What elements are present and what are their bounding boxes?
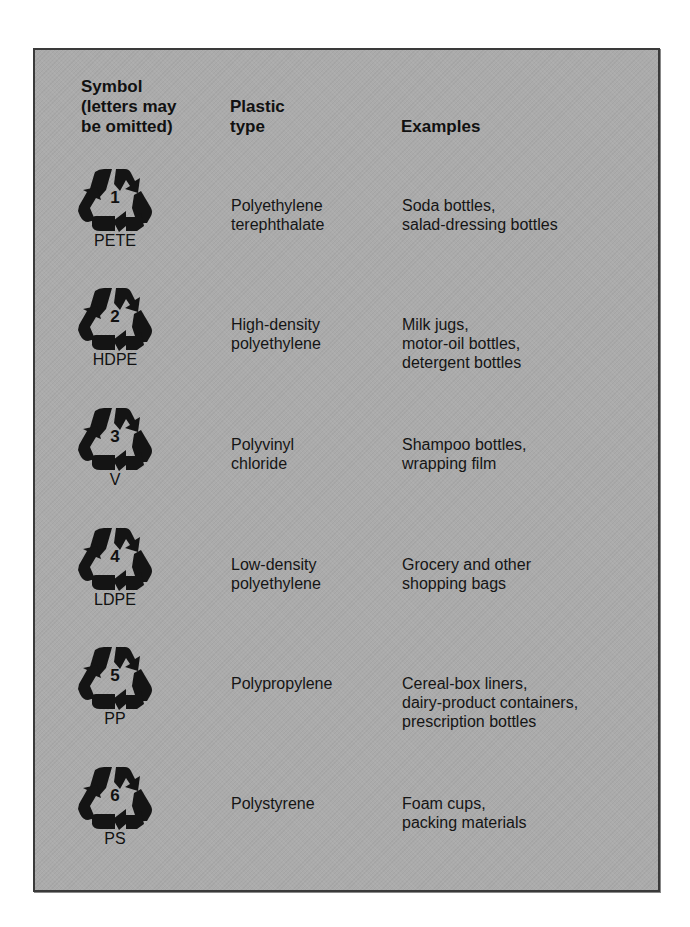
resin-code-number: 1: [77, 188, 153, 208]
examples-cell: Foam cups, packing materials: [402, 794, 527, 832]
plastic-type-line: Polypropylene: [231, 674, 332, 693]
plastic-type-cell: Polypropylene: [231, 674, 332, 693]
examples-cell: Shampoo bottles, wrapping film: [402, 435, 527, 473]
header-examples: Examples: [401, 117, 561, 137]
recycle-symbol: 2 HDPE: [77, 287, 153, 377]
examples-line: motor-oil bottles,: [402, 334, 521, 353]
examples-line: wrapping film: [402, 454, 527, 473]
resin-code-abbreviation: V: [77, 471, 153, 489]
plastic-type-line: chloride: [231, 454, 294, 473]
examples-line: shopping bags: [402, 574, 531, 593]
examples-cell: Soda bottles, salad-dressing bottles: [402, 196, 558, 234]
table-row: 4 LDPE Low-density polyethylene Grocery …: [35, 527, 658, 645]
table-row: 1 PETE Polyethylene terephthalate Soda b…: [35, 168, 658, 286]
resin-code-abbreviation: HDPE: [77, 351, 153, 369]
examples-cell: Milk jugs, motor-oil bottles, detergent …: [402, 315, 521, 372]
examples-cell: Cereal-box liners, dairy-product contain…: [402, 674, 578, 731]
plastic-type-cell: Polyethylene terephthalate: [231, 196, 324, 234]
resin-code-abbreviation: PETE: [77, 232, 153, 250]
header-symbol-line: (letters may: [81, 97, 221, 117]
recycle-symbol: 6 PS: [77, 766, 153, 856]
examples-line: Soda bottles,: [402, 196, 558, 215]
header-plastic-type-line: Plastic: [230, 97, 370, 117]
plastic-type-cell: High-density polyethylene: [231, 315, 321, 353]
examples-line: prescription bottles: [402, 712, 578, 731]
resin-code-abbreviation: LDPE: [77, 591, 153, 609]
recycle-symbol: 1 PETE: [77, 168, 153, 258]
plastic-type-line: terephthalate: [231, 215, 324, 234]
examples-line: Grocery and other: [402, 555, 531, 574]
recycle-symbol: 3 V: [77, 407, 153, 497]
recycle-symbol: 5 PP: [77, 646, 153, 736]
table-row: 5 PP Polypropylene Cereal-box liners, da…: [35, 646, 658, 764]
resin-code-abbreviation: PS: [77, 830, 153, 848]
plastic-type-line: Polystyrene: [231, 794, 315, 813]
examples-line: dairy-product containers,: [402, 693, 578, 712]
table-row: 2 HDPE High-density polyethylene Milk ju…: [35, 287, 658, 405]
examples-cell: Grocery and other shopping bags: [402, 555, 531, 593]
table-row: 3 V Polyvinyl chloride Shampoo bottles, …: [35, 407, 658, 525]
resin-code-number: 2: [77, 307, 153, 327]
resin-code-number: 6: [77, 786, 153, 806]
plastics-recycling-code-table: Symbol (letters may be omitted) Plastic …: [33, 48, 660, 892]
header-symbol: Symbol (letters may be omitted): [81, 77, 221, 137]
examples-line: packing materials: [402, 813, 527, 832]
examples-line: Shampoo bottles,: [402, 435, 527, 454]
recycle-symbol: 4 LDPE: [77, 527, 153, 617]
examples-line: Cereal-box liners,: [402, 674, 578, 693]
header-plastic-type-line: type: [230, 117, 370, 137]
header-plastic-type: Plastic type: [230, 97, 370, 137]
resin-code-number: 5: [77, 666, 153, 686]
examples-line: salad-dressing bottles: [402, 215, 558, 234]
resin-code-number: 3: [77, 427, 153, 447]
plastic-type-line: polyethylene: [231, 574, 321, 593]
header-symbol-line: be omitted): [81, 117, 221, 137]
plastic-type-line: Low-density: [231, 555, 321, 574]
table-row: 6 PS Polystyrene Foam cups, packing mate…: [35, 766, 658, 884]
header-examples-line: Examples: [401, 117, 561, 137]
plastic-type-line: polyethylene: [231, 334, 321, 353]
plastic-type-line: High-density: [231, 315, 321, 334]
resin-code-abbreviation: PP: [77, 710, 153, 728]
resin-code-number: 4: [77, 547, 153, 567]
plastic-type-line: Polyvinyl: [231, 435, 294, 454]
plastic-type-line: Polyethylene: [231, 196, 324, 215]
examples-line: Milk jugs,: [402, 315, 521, 334]
examples-line: Foam cups,: [402, 794, 527, 813]
plastic-type-cell: Polyvinyl chloride: [231, 435, 294, 473]
header-symbol-line: Symbol: [81, 77, 221, 97]
plastic-type-cell: Polystyrene: [231, 794, 315, 813]
examples-line: detergent bottles: [402, 353, 521, 372]
plastic-type-cell: Low-density polyethylene: [231, 555, 321, 593]
